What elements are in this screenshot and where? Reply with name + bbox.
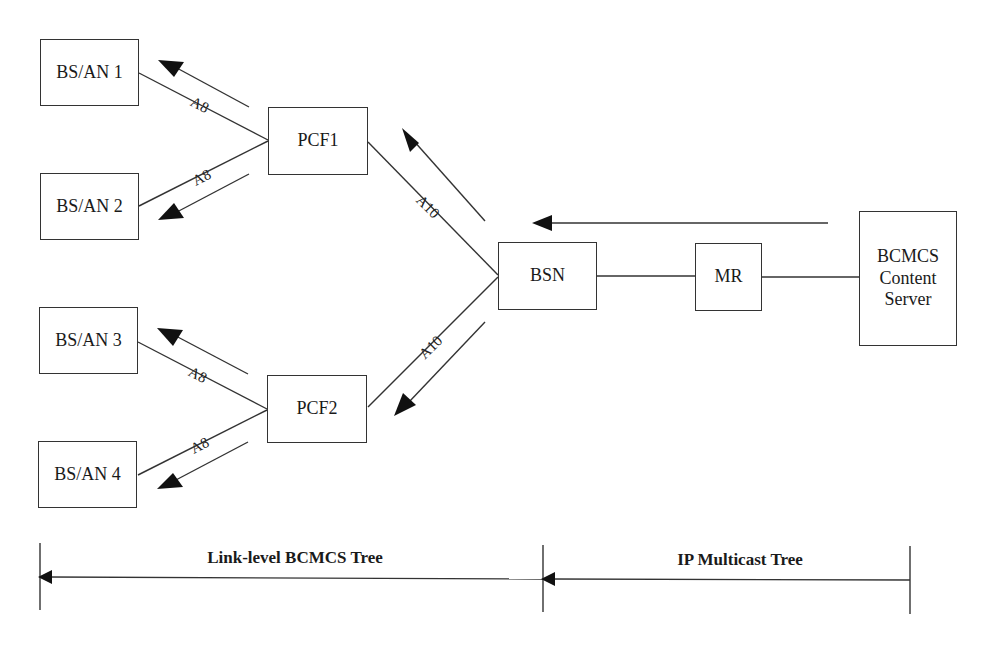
svg-text:A10: A10: [416, 332, 446, 362]
node-label: PCF1: [297, 130, 338, 152]
node-label: BS/AN 2: [56, 196, 123, 218]
node-bsan-2: BS/AN 2: [40, 173, 139, 240]
node-label: BSN: [530, 265, 565, 287]
svg-text:A10: A10: [413, 192, 443, 222]
ip-multicast-tree-label: IP Multicast Tree: [620, 550, 860, 570]
link-level-tree-label: Link-level BCMCS Tree: [150, 548, 440, 568]
svg-text:A8: A8: [186, 363, 210, 386]
node-label: MR: [714, 266, 742, 288]
node-label: BS/AN 3: [55, 330, 122, 352]
node-bsan-3: BS/AN 3: [39, 307, 138, 374]
node-bsn: BSN: [498, 242, 597, 310]
node-pcf2: PCF2: [267, 375, 367, 443]
node-label: PCF2: [296, 398, 337, 420]
node-label-line: Content: [880, 268, 937, 290]
node-bsan-1: BS/AN 1: [40, 39, 139, 106]
svg-text:A8: A8: [190, 166, 214, 189]
node-label-line: Server: [885, 289, 932, 311]
svg-text:A8: A8: [188, 93, 212, 116]
svg-text:A8: A8: [188, 434, 212, 457]
node-pcf1: PCF1: [268, 107, 368, 175]
node-label: BS/AN 4: [54, 464, 121, 486]
node-mr: MR: [695, 243, 762, 311]
node-label: BS/AN 1: [56, 62, 123, 84]
node-bcmcs-content-server: BCMCS Content Server: [859, 211, 957, 346]
node-label-line: BCMCS: [877, 246, 939, 268]
node-bsan-4: BS/AN 4: [38, 441, 137, 508]
